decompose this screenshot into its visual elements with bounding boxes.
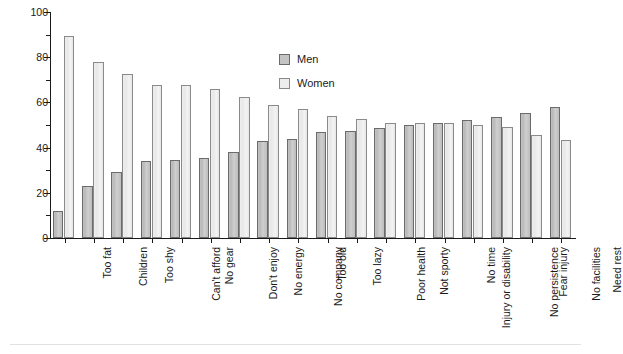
- bar-men: [433, 123, 444, 238]
- bar-women: [93, 62, 104, 238]
- bar-women: [502, 127, 513, 238]
- x-tick: [182, 239, 183, 243]
- y-tick-label: 60: [8, 96, 48, 108]
- legend-label-women: Women: [297, 78, 335, 89]
- y-tick-label: 80: [8, 51, 48, 63]
- x-tick: [328, 239, 329, 243]
- x-axis-label: Don't enjoy: [267, 247, 279, 299]
- plot-area: [50, 12, 576, 238]
- bar-women: [122, 74, 133, 238]
- y-tick-label: 20: [8, 187, 48, 199]
- bar-men: [345, 131, 356, 238]
- x-axis-label: No gear: [223, 247, 235, 284]
- x-axis-label: Injury or disability: [500, 247, 512, 328]
- x-tick: [386, 239, 387, 243]
- bar-women: [210, 89, 221, 238]
- bar-women: [327, 116, 338, 238]
- bar-women: [531, 135, 542, 238]
- legend-swatch-men-icon: [279, 54, 290, 65]
- bottom-divider: [10, 344, 581, 345]
- x-tick: [561, 239, 562, 243]
- bar-women: [444, 123, 455, 238]
- bar-men: [404, 125, 415, 238]
- bar-women: [385, 123, 396, 238]
- x-axis-label: Too shy: [163, 247, 175, 283]
- x-axis-label: Too old: [336, 247, 348, 281]
- bar-men: [287, 139, 298, 238]
- y-tick-label: 0: [8, 232, 48, 244]
- bar-men: [316, 132, 327, 238]
- bar-women: [239, 97, 250, 238]
- bar-men: [257, 141, 268, 238]
- x-axis-label: Need rest: [611, 247, 623, 293]
- x-tick: [94, 239, 95, 243]
- bar-men: [141, 161, 152, 238]
- y-tick-label: 40: [8, 142, 48, 154]
- x-axis-label: No facilities: [590, 247, 602, 301]
- bar-women: [152, 85, 163, 238]
- bar-women: [356, 119, 367, 238]
- x-tick: [503, 239, 504, 243]
- x-tick: [474, 239, 475, 243]
- bar-women: [473, 125, 484, 238]
- bar-women: [268, 105, 279, 238]
- x-axis-label: Can't afford: [210, 247, 222, 301]
- bar-men: [199, 158, 210, 238]
- bar-women: [64, 36, 75, 238]
- x-axis-label: Poor health: [415, 247, 427, 301]
- legend-item-women: Women: [279, 74, 335, 92]
- bar-women: [181, 85, 192, 238]
- legend-item-men: Men: [279, 50, 335, 68]
- chart-legend: Men Women: [279, 50, 335, 98]
- bar-men: [228, 152, 239, 238]
- bar-men: [374, 128, 385, 238]
- x-tick: [532, 239, 533, 243]
- x-tick: [269, 239, 270, 243]
- x-tick: [357, 239, 358, 243]
- bar-men: [53, 211, 64, 238]
- bar-men: [520, 113, 531, 238]
- x-axis-label: Fear injury: [557, 247, 569, 297]
- x-tick: [240, 239, 241, 243]
- bar-men: [462, 120, 473, 238]
- bar-men: [170, 160, 181, 238]
- bar-women: [298, 109, 309, 238]
- bar-men: [491, 117, 502, 238]
- x-axis-line: [50, 238, 576, 239]
- bar-women: [561, 140, 572, 238]
- x-axis-label: Children: [137, 247, 149, 286]
- legend-swatch-women-icon: [279, 78, 290, 89]
- x-tick: [211, 239, 212, 243]
- y-tick-label: 100: [8, 6, 48, 18]
- x-tick: [152, 239, 153, 243]
- x-axis-label: No time: [485, 247, 497, 283]
- x-axis-label: Too fat: [100, 247, 112, 279]
- x-tick: [415, 239, 416, 243]
- x-axis-label: No energy: [292, 247, 304, 295]
- x-tick: [445, 239, 446, 243]
- x-tick: [123, 239, 124, 243]
- bar-men: [111, 172, 122, 238]
- bar-women: [415, 123, 426, 238]
- bar-men: [550, 107, 561, 238]
- x-axis-label: Too lazy: [370, 247, 382, 286]
- legend-label-men: Men: [297, 54, 318, 65]
- x-axis-label: Not sporty: [438, 247, 450, 295]
- x-tick: [65, 239, 66, 243]
- x-tick: [298, 239, 299, 243]
- bar-men: [82, 186, 93, 238]
